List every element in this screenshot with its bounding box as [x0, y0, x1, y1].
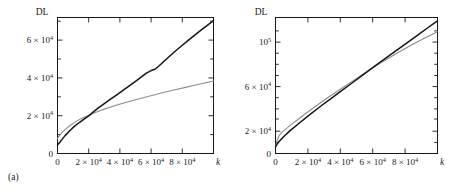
- svg-text:2 × 104: 2 × 104: [245, 125, 271, 136]
- svg-text:4 × 104: 4 × 104: [327, 156, 353, 167]
- svg-text:4 × 104: 4 × 104: [107, 156, 133, 167]
- x-ticks-top-a: [89, 18, 183, 23]
- x-tick-labels-b: 0 2 × 104 4 × 104 6 × 104 8 × 104: [273, 156, 418, 167]
- svg-text:8 × 104: 8 × 104: [169, 156, 195, 167]
- svg-text:8 × 104: 8 × 104: [392, 156, 418, 167]
- plot-svg-a: DL 0 2 × 104 4 × 104 6 × 104 0 2 × 104 4…: [0, 0, 225, 192]
- chart-panel-a: DL 0 2 × 104 4 × 104 6 × 104 0 2 × 104 4…: [0, 0, 225, 192]
- svg-text:4 × 104: 4 × 104: [27, 72, 53, 83]
- plot-svg-b: DL 0 2 × 104 6 × 104 105 0 2 × 104 4 × 1…: [225, 0, 449, 192]
- svg-text:6 × 104: 6 × 104: [245, 80, 271, 91]
- svg-text:0: 0: [49, 149, 54, 159]
- series-dark-curve-a: [58, 21, 214, 145]
- svg-text:2 × 104: 2 × 104: [76, 156, 102, 167]
- y-ticks-right-a: [209, 21, 214, 134]
- x-ticks-a: [58, 149, 214, 154]
- panel-caption-a: (a): [8, 172, 19, 182]
- series-light-curve-a: [58, 81, 214, 138]
- svg-text:6 × 104: 6 × 104: [27, 34, 53, 45]
- svg-text:105: 105: [259, 36, 271, 47]
- x-ticks-top-b: [308, 18, 405, 23]
- svg-text:6 × 104: 6 × 104: [360, 156, 386, 167]
- svg-text:0: 0: [55, 157, 60, 167]
- svg-text:0: 0: [273, 157, 278, 167]
- x-axis-label-a: k: [216, 157, 221, 167]
- series-group-a: [58, 21, 214, 145]
- y-tick-labels-b: 0 2 × 104 6 × 104 105: [245, 36, 272, 159]
- series-group-b: [276, 21, 438, 147]
- series-light-curve-b: [276, 32, 438, 147]
- x-tick-labels-a: 0 2 × 104 4 × 104 6 × 104 8 × 104: [55, 156, 195, 167]
- svg-text:2 × 104: 2 × 104: [295, 156, 321, 167]
- x-axis-label-b: k: [440, 157, 445, 167]
- chart-panel-b: DL 0 2 × 104 6 × 104 105 0 2 × 104 4 × 1…: [225, 0, 449, 192]
- y-tick-labels-a: 0 2 × 104 4 × 104 6 × 104: [27, 34, 54, 159]
- y-ticks-right-b: [433, 31, 438, 142]
- series-dark-curve-b: [276, 21, 438, 147]
- y-axis-label-b: DL: [255, 7, 268, 17]
- svg-text:6 × 104: 6 × 104: [138, 156, 164, 167]
- axes-frame-a: [58, 18, 214, 154]
- figure-container: DL 0 2 × 104 4 × 104 6 × 104 0 2 × 104 4…: [0, 0, 449, 192]
- svg-text:0: 0: [267, 149, 272, 159]
- x-ticks-b: [276, 149, 438, 154]
- svg-text:2 × 104: 2 × 104: [27, 109, 53, 120]
- y-axis-label-a: DL: [36, 7, 49, 17]
